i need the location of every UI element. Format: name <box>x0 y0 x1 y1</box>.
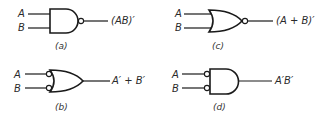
gate-c-or-body <box>209 10 242 32</box>
gate-c-output-label: (A + B)′ <box>276 15 315 26</box>
gate-b-caption: (b) <box>55 102 68 112</box>
gate-b-or-inverted-inputs: A B A′ + B′ (b) <box>13 69 146 112</box>
gate-c-nor: A B (A + B)′ (c) <box>174 8 315 51</box>
gate-d-input-a-label: A <box>171 69 179 80</box>
gate-c-input-b-label: B <box>175 22 182 33</box>
gate-a-output-bubble-icon <box>78 18 83 23</box>
gate-b-or-body <box>50 70 83 92</box>
gate-d-input-a-bubble-icon <box>204 71 209 76</box>
gate-a-and-body <box>50 9 78 33</box>
gate-a-output-label: (AB)′ <box>111 15 136 26</box>
gate-d-input-b-label: B <box>172 83 179 94</box>
gate-c-caption: (c) <box>212 41 224 51</box>
gate-a-nand: A B (AB)′ (a) <box>17 8 136 51</box>
gate-c-input-a-label: A <box>174 8 182 19</box>
gate-b-input-b-label: B <box>14 83 21 94</box>
gate-b-input-a-label: A <box>13 69 21 80</box>
gate-a-caption: (a) <box>55 41 68 51</box>
gate-a-input-b-label: B <box>18 22 25 33</box>
logic-gates-diagram: A B (AB)′ (a) A B (A + B)′ (c) A B A′ + … <box>0 0 329 119</box>
gate-b-output-label: A′ + B′ <box>111 75 146 86</box>
gate-a-input-a-label: A <box>17 8 25 19</box>
gate-d-input-b-bubble-icon <box>204 85 209 90</box>
gate-d-caption: (d) <box>213 102 226 112</box>
gate-d-output-label: A′B′ <box>274 75 294 86</box>
gate-d-and-body <box>210 69 239 94</box>
gate-c-output-bubble-icon <box>242 18 247 23</box>
gate-d-and-inverted-inputs: A B A′B′ (d) <box>171 69 294 112</box>
